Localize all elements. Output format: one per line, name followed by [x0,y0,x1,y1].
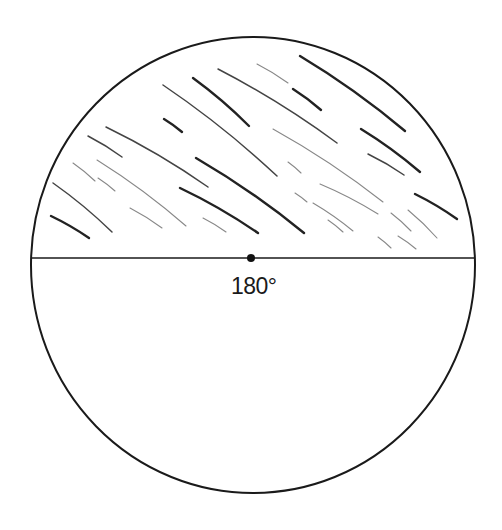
hatch-stroke [88,136,122,157]
hatch-stroke [378,237,391,248]
angle-label: 180° [231,273,277,300]
hatch-stroke [293,89,321,110]
hatch-stroke [313,203,353,231]
hatch-stroke [98,178,115,191]
hatch-stroke [203,218,226,232]
circle-outline [31,37,475,493]
hatch-stroke [130,208,162,228]
center-point [247,254,255,262]
hatch-stroke [73,163,95,181]
hatch-stroke [288,162,301,173]
hatch-stroke [273,129,383,202]
hatch-stroke [391,213,411,231]
hatch-stroke [368,154,404,175]
hatch-shading [51,56,457,249]
hatch-stroke [196,158,304,233]
hatch-stroke [193,78,249,126]
hatch-stroke [415,194,457,219]
hatch-stroke [257,64,288,83]
hatch-stroke [320,184,378,214]
hatch-stroke [180,188,258,233]
hatch-stroke [300,56,405,131]
hatch-stroke [408,210,437,238]
hatch-stroke [164,119,182,132]
hatch-stroke [97,160,186,226]
hatch-stroke [295,193,307,202]
hatch-stroke [53,183,112,232]
hatch-stroke [398,236,416,249]
hatch-stroke [51,216,89,238]
circle-diagram: 180° [0,0,502,530]
